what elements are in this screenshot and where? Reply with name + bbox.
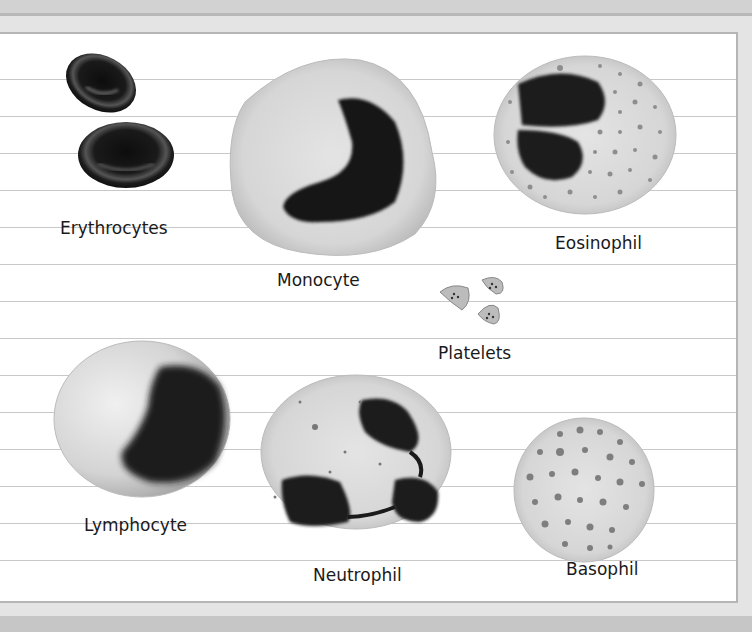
monocyte-icon — [230, 59, 436, 256]
eosinophil-icon — [494, 56, 676, 214]
neutrophil-icon — [261, 375, 451, 529]
frame-top-border — [0, 0, 752, 13]
erythrocyte-icon — [56, 42, 174, 188]
platelet-icon — [440, 277, 503, 324]
lymphocyte-icon — [54, 341, 230, 497]
label-monocyte: Monocyte — [277, 270, 360, 290]
label-lymphocyte: Lymphocyte — [84, 515, 187, 535]
diagram-panel: Erythrocytes Monocyte Eosinophil Platele… — [0, 32, 738, 603]
label-platelets: Platelets — [438, 343, 511, 363]
label-eosinophil: Eosinophil — [555, 233, 642, 253]
frame-bottom-border — [0, 616, 752, 632]
label-basophil: Basophil — [566, 559, 638, 579]
basophil-icon — [514, 418, 654, 562]
label-erythrocytes: Erythrocytes — [60, 218, 168, 238]
label-neutrophil: Neutrophil — [313, 565, 402, 585]
